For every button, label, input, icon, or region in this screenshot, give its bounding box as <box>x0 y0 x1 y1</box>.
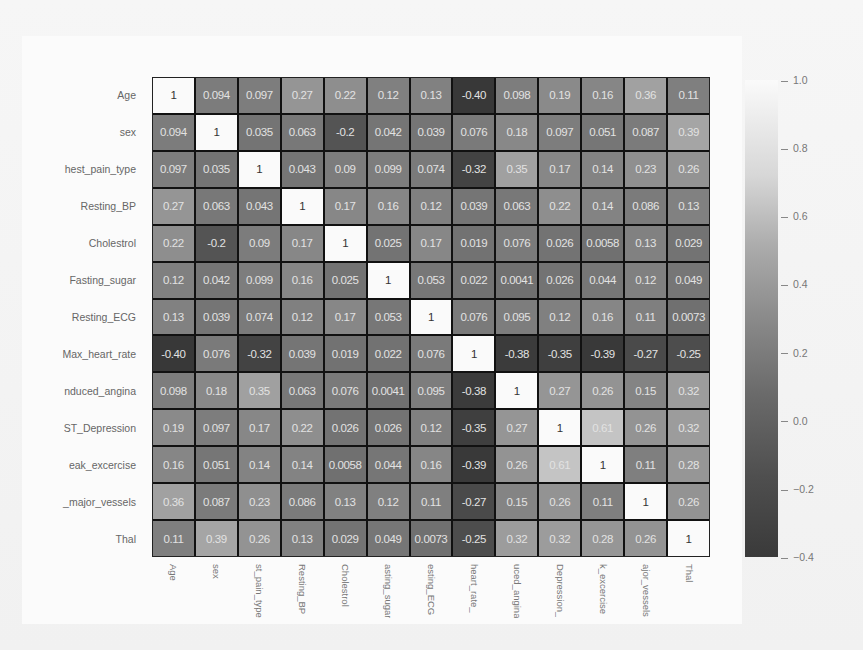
heatmap-cell: 0.11 <box>411 484 452 519</box>
heatmap-cell: 0.26 <box>625 521 666 556</box>
heatmap-cell: 0.019 <box>325 336 366 371</box>
heatmap-cell: 0.27 <box>539 373 580 408</box>
heatmap-cell: 0.026 <box>539 263 580 298</box>
heatmap-cell: 0.36 <box>625 78 666 113</box>
heatmap-cell: 0.14 <box>582 152 623 187</box>
heatmap-cell: 0.12 <box>282 300 323 335</box>
heatmap-cell: 0.097 <box>239 78 280 113</box>
y-tick-label: Resting_BP <box>0 188 146 225</box>
heatmap-cell: -0.32 <box>453 152 494 187</box>
heatmap-cell: 0.11 <box>153 521 194 556</box>
heatmap-cell: 0.063 <box>496 189 537 224</box>
heatmap-cell: 1 <box>368 263 409 298</box>
x-tick-label: k_excercise <box>597 564 608 614</box>
heatmap-cell: 0.13 <box>325 484 366 519</box>
heatmap-cell: 0.13 <box>668 189 709 224</box>
heatmap-cell: 0.086 <box>625 189 666 224</box>
x-tick-label: uced_angina <box>511 564 522 618</box>
heatmap-cell: 0.074 <box>239 300 280 335</box>
heatmap-cell: 0.61 <box>539 447 580 482</box>
heatmap-cell: 1 <box>496 373 537 408</box>
heatmap-cell: 0.11 <box>625 300 666 335</box>
heatmap-cell: 0.022 <box>368 336 409 371</box>
heatmap-cell: 0.28 <box>582 521 623 556</box>
heatmap-cell: 0.022 <box>453 263 494 298</box>
heatmap-cell: 0.12 <box>625 263 666 298</box>
heatmap-cell: 0.039 <box>282 336 323 371</box>
heatmap-cell: 0.044 <box>582 263 623 298</box>
heatmap-cell: -0.2 <box>196 226 237 261</box>
heatmap-cell: 0.0073 <box>411 521 452 556</box>
colorbar-tick-label: 0.4 <box>781 278 808 290</box>
heatmap-cell: 0.076 <box>453 115 494 150</box>
colorbar-tick-label: −0.4 <box>781 551 814 563</box>
heatmap-cell: 0.26 <box>582 373 623 408</box>
heatmap-cell: -0.25 <box>453 521 494 556</box>
y-tick-label: Max_heart_rate <box>0 335 146 372</box>
heatmap-cell: 1 <box>282 189 323 224</box>
heatmap-cell: 0.019 <box>453 226 494 261</box>
heatmap-cell: 0.27 <box>282 78 323 113</box>
heatmap-cell: 0.17 <box>539 152 580 187</box>
heatmap-cell: 0.26 <box>668 152 709 187</box>
heatmap-cell: 0.27 <box>153 189 194 224</box>
heatmap-cell: 0.097 <box>153 152 194 187</box>
heatmap-cell: 0.16 <box>411 447 452 482</box>
heatmap-cell: 0.029 <box>668 226 709 261</box>
x-axis-labels: Agesexst_pain_typeResting_BPCholestrolas… <box>152 560 710 620</box>
heatmap-cell: 0.36 <box>153 484 194 519</box>
heatmap-cell: 0.076 <box>325 373 366 408</box>
heatmap-cell: 0.043 <box>282 152 323 187</box>
heatmap-cell: 0.15 <box>496 484 537 519</box>
heatmap-cell: 0.053 <box>411 263 452 298</box>
colorbar-tick-label: −0.2 <box>781 483 814 495</box>
heatmap-cell: 0.17 <box>411 226 452 261</box>
heatmap-cell: -0.32 <box>239 336 280 371</box>
heatmap-cell: 0.063 <box>282 373 323 408</box>
heatmap-cell: 0.16 <box>282 263 323 298</box>
heatmap-cell: 0.12 <box>153 263 194 298</box>
heatmap-cell: 0.12 <box>539 300 580 335</box>
heatmap-cell: 0.095 <box>496 300 537 335</box>
heatmap-cell: 0.095 <box>411 373 452 408</box>
x-tick-label: _heart_rate <box>468 564 479 613</box>
heatmap-cell: 0.16 <box>582 300 623 335</box>
heatmap-cell: 0.13 <box>153 300 194 335</box>
heatmap-cell: 1 <box>196 115 237 150</box>
heatmap-cell: 0.053 <box>368 300 409 335</box>
heatmap-figure: Agesexhest_pain_typeResting_BPCholestrol… <box>0 0 863 650</box>
colorbar-tick-label: 0.8 <box>781 142 808 154</box>
heatmap-cell: 0.14 <box>239 447 280 482</box>
heatmap-cell: 0.11 <box>582 484 623 519</box>
heatmap-cell: 0.17 <box>325 300 366 335</box>
heatmap-cell: -0.25 <box>668 336 709 371</box>
heatmap-cell: 0.32 <box>539 521 580 556</box>
heatmap-cell: 0.051 <box>582 115 623 150</box>
heatmap-cell: 0.17 <box>325 189 366 224</box>
x-tick-label: ajor_vessels <box>640 564 651 617</box>
x-tick-label: Age <box>168 564 179 581</box>
heatmap-cell: -0.39 <box>453 447 494 482</box>
x-tick-label: Thal <box>683 564 694 582</box>
heatmap-cell: 0.094 <box>153 115 194 150</box>
heatmap-cell: 0.087 <box>196 484 237 519</box>
y-tick-label: Fasting_sugar <box>0 262 146 299</box>
y-tick-label: sex <box>0 114 146 151</box>
heatmap-cell: 0.076 <box>453 300 494 335</box>
heatmap-cell: 0.12 <box>368 484 409 519</box>
heatmap-cell: 0.32 <box>668 373 709 408</box>
heatmap-cell: -0.2 <box>325 115 366 150</box>
heatmap-cell: -0.35 <box>453 410 494 445</box>
heatmap-cell: 0.039 <box>196 300 237 335</box>
heatmap-cell: 0.035 <box>239 115 280 150</box>
heatmap-cell: 0.12 <box>411 410 452 445</box>
y-axis-labels: Agesexhest_pain_typeResting_BPCholestrol… <box>0 77 146 557</box>
heatmap-cell: 0.076 <box>411 336 452 371</box>
heatmap-cell: 0.26 <box>668 484 709 519</box>
heatmap-cell: 0.026 <box>368 410 409 445</box>
heatmap-cell: 0.0058 <box>325 447 366 482</box>
heatmap-cell: 1 <box>411 300 452 335</box>
x-tick-label: _Depression <box>554 564 565 617</box>
heatmap-cell: -0.38 <box>496 336 537 371</box>
heatmap-cell: 0.15 <box>625 373 666 408</box>
